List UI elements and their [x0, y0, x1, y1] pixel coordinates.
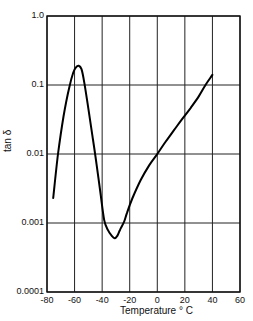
x-tick-label: 20	[173, 295, 197, 305]
x-tick-label: 0	[145, 295, 169, 305]
x-tick-label: 40	[200, 295, 224, 305]
y-tick-label: 0.001	[0, 217, 44, 227]
grid-lines	[47, 16, 240, 292]
data-series-tan-delta	[53, 66, 212, 239]
x-tick-label: -40	[90, 295, 114, 305]
x-tick-label: -20	[118, 295, 142, 305]
y-tick-label: 0.1	[0, 79, 44, 89]
x-tick-label: -60	[63, 295, 87, 305]
y-axis-label: tan δ	[2, 130, 13, 152]
y-tick-label: 1.0	[0, 10, 44, 20]
x-axis-label: Temperature ° C	[0, 305, 253, 316]
x-tick-label: 60	[228, 295, 252, 305]
chart-canvas	[0, 0, 253, 321]
x-tick-label: -80	[35, 295, 59, 305]
